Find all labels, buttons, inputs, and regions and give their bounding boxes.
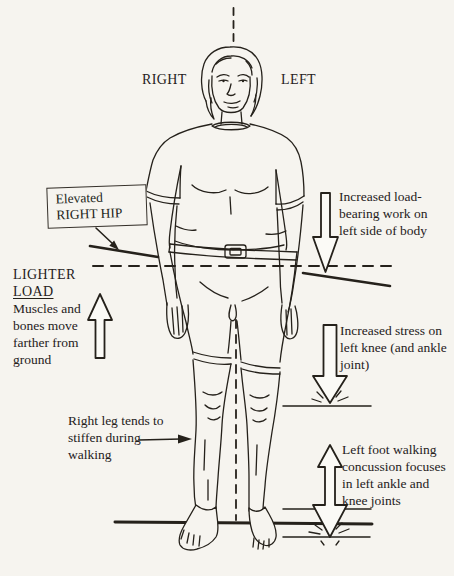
lighter-load-body-line: ground bbox=[13, 351, 81, 368]
stiff-leg-line: Right leg tends to bbox=[68, 412, 164, 429]
lighter-load-heading1: LIGHTER bbox=[13, 266, 81, 283]
elevated-right-hip-callout-box: Elevated RIGHT HIP bbox=[46, 184, 147, 228]
lighter-load-up-arrow-icon bbox=[88, 294, 112, 358]
stiff-leg-line: walking bbox=[68, 446, 164, 463]
knee-stress-line: left knee (and ankle bbox=[340, 339, 447, 356]
load-bearing-line: bearing work on bbox=[339, 205, 427, 222]
knee-stress-line: joint) bbox=[340, 356, 447, 373]
lighter-load-heading2: LOAD bbox=[13, 283, 81, 300]
foot-concussion-line: in left ankle and bbox=[342, 475, 446, 492]
load-bearing-note: Increased load- bearing work on left sid… bbox=[339, 188, 427, 239]
feet bbox=[179, 505, 276, 550]
orientation-label-right: RIGHT bbox=[142, 71, 187, 88]
belt-buckle bbox=[225, 245, 246, 258]
stiff-leg-line: stiffen during bbox=[68, 429, 164, 446]
knee-stress-line: Increased stress on bbox=[340, 322, 447, 339]
left-hip-slant-line bbox=[303, 273, 390, 286]
load-bearing-line: left side of body bbox=[339, 222, 427, 239]
foot-concussion-line: knee joints bbox=[342, 492, 446, 509]
foot-concussion-note: Left foot walking concussion focuses in … bbox=[342, 441, 446, 509]
figure-drawing bbox=[146, 47, 304, 511]
foot-concussion-line: concussion focuses bbox=[342, 458, 446, 475]
shirt-collar bbox=[212, 122, 250, 130]
lighter-load-body-line: bones move bbox=[13, 317, 81, 334]
lighter-load-body-line: farther from bbox=[13, 334, 81, 351]
right-hip-slant-line bbox=[90, 246, 158, 257]
lighter-load-body-line: Muscles and bbox=[13, 300, 81, 317]
diagram-page: RIGHT LEFT Elevated RIGHT HIP Increased … bbox=[0, 0, 454, 576]
load-bearing-line: Increased load- bbox=[339, 188, 427, 205]
foot-concussion-line: Left foot walking bbox=[342, 441, 446, 458]
load-bearing-down-arrow-icon bbox=[313, 193, 338, 272]
face bbox=[212, 75, 250, 113]
knee-stress-note: Increased stress on left knee (and ankle… bbox=[340, 322, 447, 373]
orientation-label-left: LEFT bbox=[281, 71, 316, 88]
lighter-load-note: LIGHTER LOAD Muscles and bones move fart… bbox=[13, 266, 81, 368]
elevated-hip-line2: RIGHT HIP bbox=[56, 204, 143, 223]
stiff-leg-note: Right leg tends to stiffen during walkin… bbox=[68, 412, 164, 463]
t-shirt bbox=[146, 124, 304, 250]
